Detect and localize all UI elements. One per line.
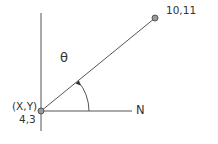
bearing-line [41,18,155,111]
end-point-marker [152,15,158,21]
start-point-value: 4,3 [19,114,36,125]
start-point-marker [38,108,44,114]
theta-angle-label: θ [60,51,68,64]
angle-arc [78,81,89,111]
start-point-label: (X,Y) [12,101,37,112]
end-point-label: 10,11 [166,5,196,16]
north-axis-label: N [136,105,145,117]
